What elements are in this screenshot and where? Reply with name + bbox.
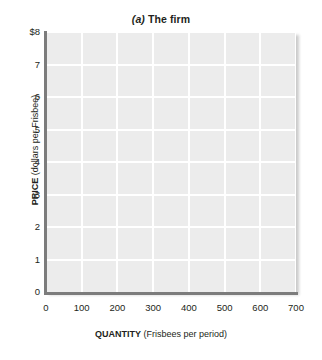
x-tick-label: 400 bbox=[169, 303, 209, 313]
x-tick-label: 300 bbox=[133, 303, 173, 313]
x-tick-label: 0 bbox=[26, 303, 66, 313]
y-tick-label: $8 bbox=[0, 27, 40, 37]
gridline-horizontal bbox=[46, 96, 296, 98]
x-tick-label: 100 bbox=[62, 303, 102, 313]
y-axis-label: PRICE (dollars per Frisbee) bbox=[30, 70, 40, 230]
x-tick-label: 700 bbox=[276, 303, 316, 313]
x-tick-label: 600 bbox=[240, 303, 280, 313]
panel-letter: (a) bbox=[132, 13, 145, 25]
gridline-horizontal bbox=[46, 129, 296, 131]
chart-title-text: The firm bbox=[148, 13, 190, 25]
x-tick-label: 200 bbox=[97, 303, 137, 313]
gridline-horizontal bbox=[46, 161, 296, 163]
chart-title: (a) The firm bbox=[0, 13, 322, 25]
y-axis-label-strong: PRICE bbox=[30, 178, 40, 206]
gridline-horizontal bbox=[46, 226, 296, 228]
x-axis-line bbox=[44, 292, 298, 295]
y-tick-label: 7 bbox=[0, 60, 40, 70]
y-axis-label-unit: (dollars per Frisbee) bbox=[30, 95, 40, 176]
x-axis-label: QUANTITY (Frisbees per period) bbox=[0, 329, 322, 339]
gridline-horizontal bbox=[46, 259, 296, 261]
y-axis-line bbox=[44, 31, 47, 294]
x-axis-label-strong: QUANTITY bbox=[95, 329, 141, 339]
gridline-horizontal bbox=[46, 194, 296, 196]
plot-area bbox=[46, 32, 296, 292]
x-tick-label: 500 bbox=[205, 303, 245, 313]
gridline-horizontal bbox=[46, 32, 296, 33]
gridline-horizontal bbox=[46, 64, 296, 66]
figure-panel-a: (a) The firm 01234567$8 0100200300400500… bbox=[0, 0, 322, 360]
y-tick-label: 0 bbox=[0, 287, 40, 297]
y-tick-label: 1 bbox=[0, 255, 40, 265]
x-axis-label-unit: (Frisbees per period) bbox=[143, 329, 227, 339]
